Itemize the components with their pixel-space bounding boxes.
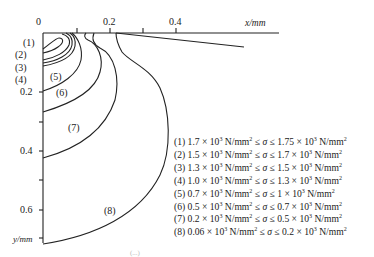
y-tick-label-0.6: 0.6 <box>20 205 33 215</box>
curve-label-6: (6) <box>56 88 68 98</box>
curve-label-5: (5) <box>50 72 62 82</box>
contour-7 <box>43 33 117 158</box>
x-tick-label-0.4: 0.4 <box>169 17 182 27</box>
legend-row-3: (3) 1.3 × 103 N/mm2 ≤ σ ≤ 1.5 × 103 N/mm… <box>174 162 347 175</box>
x-tick-label-0.2: 0.2 <box>103 17 116 27</box>
curve-label-8: (8) <box>104 206 116 216</box>
curve-label-2: (2) <box>15 50 27 60</box>
legend-row-6: (6) 0.5 × 103 N/mm2 ≤ σ ≤ 0.7 × 103 N/mm… <box>174 201 347 214</box>
legend-row-7: (7) 0.2 × 103 N/mm2 ≤ σ ≤ 0.5 × 103 N/mm… <box>174 213 347 226</box>
legend: (1) 1.7 × 103 N/mm2 ≤ σ ≤ 1.75 × 103 N/m… <box>174 136 347 239</box>
curve-label-4: (4) <box>15 75 27 85</box>
x-tick-label-0: 0 <box>36 17 41 27</box>
figure-caption: (...) <box>130 249 140 257</box>
contour-1 <box>43 38 63 53</box>
contour-2 <box>43 34 70 60</box>
curve-label-3: (3) <box>15 63 27 73</box>
legend-row-5: (5) 0.7 × 103 N/mm2 ≤ σ ≤ 1 × 103 N/mm2 <box>174 188 347 201</box>
curve-label-1: (1) <box>23 38 35 48</box>
legend-row-4: (4) 1.0 × 103 N/mm2 ≤ σ ≤ 1.3 × 103 N/mm… <box>174 175 347 188</box>
y-axis-label: y/mm <box>13 234 33 244</box>
tool-edge-line <box>116 33 244 47</box>
legend-row-2: (2) 1.5 × 103 N/mm2 ≤ σ ≤ 1.7 × 103 N/mm… <box>174 149 347 162</box>
x-axis-label: x/mm <box>245 18 266 28</box>
y-tick-label-0.4: 0.4 <box>20 146 33 156</box>
curve-label-7: (7) <box>68 123 80 133</box>
legend-row-8: (8) 0.06 × 103 N/mm2 ≤ σ ≤ 0.2 × 103 N/m… <box>174 226 347 239</box>
legend-row-1: (1) 1.7 × 103 N/mm2 ≤ σ ≤ 1.75 × 103 N/m… <box>174 136 347 149</box>
y-tick-label-0.2: 0.2 <box>20 87 33 97</box>
